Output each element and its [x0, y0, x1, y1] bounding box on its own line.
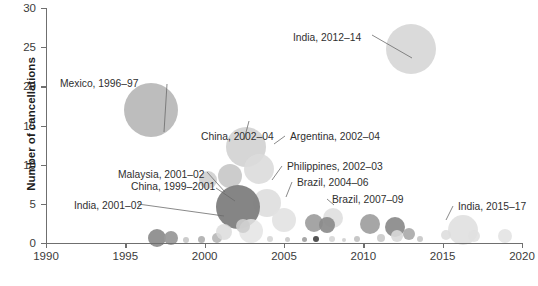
x-tick-label-1990: 1990 [33, 250, 59, 262]
annot-india-2015: India, 2015–17 [458, 201, 526, 212]
y-axis-title: Number of cancellations [25, 49, 37, 199]
x-tick-label-2005: 2005 [271, 250, 297, 262]
x-tick-label-1995: 1995 [113, 250, 139, 262]
bubble-point [198, 236, 205, 243]
x-tick-mark [284, 243, 285, 248]
annot-philippines: Philippines, 2002–03 [287, 161, 383, 172]
annot-india-2012: India, 2012–14 [293, 32, 361, 43]
annot-brazil-2007: Brazil, 2007–09 [332, 194, 404, 205]
bubble-point [360, 214, 380, 234]
bubble-point [498, 229, 512, 243]
bubble-mexico-1996-97 [124, 83, 178, 137]
y-tick-mark [41, 86, 46, 87]
y-tick-label-30: 30 [8, 2, 36, 14]
y-tick-label-0: 0 [8, 237, 36, 249]
annot-india-2001: India, 2001–02 [74, 200, 142, 211]
annot-malaysia: Malaysia, 2001–02 [118, 169, 204, 180]
x-tick-label-2015: 2015 [430, 250, 456, 262]
bubble-point [468, 230, 480, 242]
bubble-point [313, 236, 319, 242]
bubble-point [267, 236, 273, 242]
bubble-point [236, 219, 250, 233]
x-tick-mark [205, 243, 206, 248]
x-tick-mark [522, 243, 523, 248]
x-tick-mark [46, 243, 47, 248]
bubble-point [417, 236, 423, 242]
bubble-point [391, 230, 403, 242]
bubble-point [441, 230, 451, 240]
annot-brazil-2004: Brazil, 2004–06 [297, 177, 369, 188]
x-tick-label-2020: 2020 [509, 250, 535, 262]
annot-argentina: Argentina, 2002–04 [290, 131, 380, 142]
bubble-point [329, 236, 335, 242]
bubble-point [285, 237, 290, 242]
x-tick-label-2000: 2000 [192, 250, 218, 262]
annot-china-2002: China, 2002–04 [201, 131, 274, 142]
annot-china-1999: China, 1999–2001 [131, 181, 215, 192]
bubble-argentina-2002-04 [244, 154, 274, 184]
bubble-point [302, 237, 307, 242]
y-tick-mark [41, 126, 46, 127]
bubble-point [183, 237, 189, 243]
y-tick-mark [41, 165, 46, 166]
bubble-point [354, 236, 360, 242]
bubble-point [216, 224, 232, 240]
y-tick-mark [41, 8, 46, 9]
x-tick-mark [125, 243, 126, 248]
y-tick-mark [41, 204, 46, 205]
y-tick-label-5: 5 [8, 198, 36, 210]
annot-mexico: Mexico, 1996–97 [60, 78, 138, 89]
bubble-point [403, 228, 415, 240]
bubble-point [319, 217, 335, 233]
y-axis-line [46, 8, 47, 244]
y-tick-mark [41, 47, 46, 48]
bubble-india-2012-14 [386, 24, 436, 74]
x-tick-mark [443, 243, 444, 248]
x-tick-label-2010: 2010 [351, 250, 377, 262]
bubble-brazil-2004-06 [272, 208, 296, 232]
x-tick-mark [363, 243, 364, 248]
bubble-point [342, 238, 346, 242]
bubble-chart: 1990199520002005201020152020051015202530… [0, 0, 538, 286]
bubble-point [377, 234, 385, 242]
y-tick-mark [41, 243, 46, 244]
